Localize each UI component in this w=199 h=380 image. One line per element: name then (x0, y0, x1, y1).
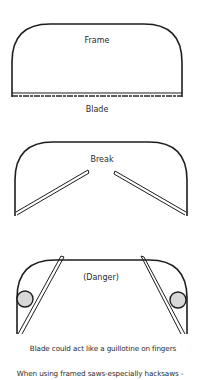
label-break: Break (90, 156, 113, 164)
hacksaw-safety-diagram: Frame Blade Break (Danger) Blade could a… (0, 0, 199, 380)
blade-fragment-right (114, 171, 186, 215)
label-blade: Blade (86, 106, 109, 114)
label-frame: Frame (85, 37, 110, 45)
diagram-graphics (0, 0, 199, 380)
saw-frame-intact (12, 24, 182, 97)
blade-fragment-left (16, 170, 89, 215)
danger-saw (17, 256, 187, 334)
caption-context: When using framed saws-especially hacksa… (17, 370, 184, 377)
finger-right (170, 292, 186, 308)
finger-left (17, 291, 33, 307)
broken-saw (15, 142, 187, 216)
saw-frame-broken (15, 142, 187, 216)
caption-warning: Blade could act like a guillotine on fin… (30, 345, 176, 352)
label-danger: (Danger) (83, 274, 119, 282)
intact-saw (12, 24, 182, 97)
